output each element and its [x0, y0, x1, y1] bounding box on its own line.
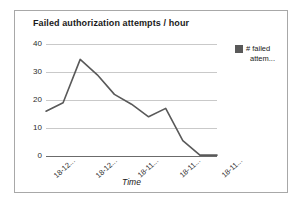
- legend-label-line2: attem...: [250, 54, 284, 64]
- legend-label: # failedattem...: [246, 44, 284, 64]
- y-tick-label-10: 10: [33, 124, 42, 132]
- legend-swatch-icon: [235, 45, 243, 53]
- y-tick-label-0: 0: [38, 152, 42, 160]
- y-axis: 40 30 20 10 0: [23, 44, 42, 156]
- plot-area: [46, 44, 217, 156]
- series-line-failed-attempts: [46, 44, 217, 157]
- y-tick-label-20: 20: [33, 96, 42, 104]
- legend-label-line1: # failed: [246, 44, 270, 53]
- legend: # failedattem...: [235, 44, 287, 64]
- chart-title: Failed authorization attempts / hour: [33, 18, 189, 28]
- x-axis-title: Time: [46, 177, 217, 187]
- chart-container: Failed authorization attempts / hour 40 …: [14, 10, 288, 193]
- legend-item: # failedattem...: [235, 44, 287, 64]
- x-tick-label-4: 18-11...: [220, 157, 244, 180]
- y-tick-label-30: 30: [33, 68, 42, 76]
- y-tick-label-40: 40: [33, 40, 42, 48]
